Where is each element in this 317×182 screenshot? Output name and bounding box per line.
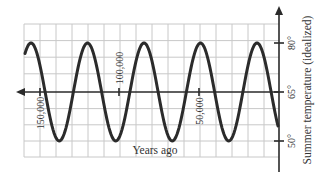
x-tick-label-50000: 50,000 <box>194 97 205 125</box>
y-tick-label-65: 65° <box>286 85 297 99</box>
x-tick-label-100000: 100,000 <box>114 52 125 85</box>
x-tick-label-150000: 150,000 <box>35 97 46 130</box>
y-axis-title: Summer temperature (idealized) <box>301 15 314 164</box>
temperature-cycle-chart: 150,000 100,000 50,000 80° 65° 50° Years… <box>0 0 317 182</box>
x-axis-arrow-icon <box>16 88 25 96</box>
y-tick-label-80: 80° <box>286 36 297 50</box>
y-axis-arrow-icon <box>275 6 283 15</box>
y-tick-label-50: 50° <box>286 134 297 148</box>
x-axis-title: Years ago <box>132 144 177 157</box>
